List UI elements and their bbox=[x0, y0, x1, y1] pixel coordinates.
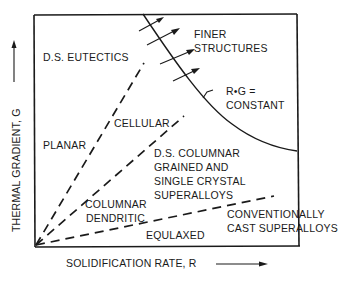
x-axis-label-group: SOLIDIFICATION RATE, R bbox=[66, 257, 268, 269]
up-arrow-icon bbox=[12, 40, 17, 82]
arrow-3 bbox=[160, 49, 195, 64]
y-axis-label-group: THERMAL GRADIENT, G bbox=[10, 40, 22, 232]
right-arrow-icon bbox=[216, 262, 268, 267]
label-rg-2: CONSTANT bbox=[226, 99, 285, 111]
label-ds-columnar-4: SUPERALLOYS bbox=[154, 189, 233, 201]
label-finer-1: FINER bbox=[194, 28, 227, 40]
label-ds-columnar-1: D.S. COLUMNAR bbox=[154, 147, 240, 159]
x-axis-label: SOLIDIFICATION RATE, R bbox=[66, 257, 197, 269]
y-axis-label: THERMAL GRADIENT, G bbox=[10, 108, 22, 232]
region-labels: D.S. EUTECTICS PLANAR CELLULAR COLUMNAR … bbox=[43, 28, 338, 241]
arrow-2 bbox=[147, 28, 180, 45]
arrowhead-icon bbox=[156, 17, 164, 23]
arrowhead-icon bbox=[191, 68, 200, 74]
label-columnar-dendritic-2: DENDRITIC bbox=[86, 212, 145, 224]
solidification-diagram: D.S. EUTECTICS PLANAR CELLULAR COLUMNAR … bbox=[0, 0, 345, 281]
constant-leader-line bbox=[203, 90, 213, 98]
label-cellular: CELLULAR bbox=[114, 117, 170, 129]
arrow-1 bbox=[139, 17, 164, 31]
frame-top bbox=[34, 14, 297, 15]
arrowhead-icon bbox=[171, 28, 180, 35]
label-conventionally-cast-1: CONVENTIONALLY bbox=[227, 208, 325, 220]
label-conventionally-cast-2: CAST SUPERALLOYS bbox=[227, 222, 338, 234]
label-equiaxed: EQULAXED bbox=[146, 229, 205, 241]
label-planar: PLANAR bbox=[43, 139, 86, 151]
arrow-4 bbox=[173, 68, 200, 81]
label-ds-columnar-3: SINGLE CRYSTAL bbox=[154, 175, 246, 187]
label-rg-1: R•G = bbox=[226, 85, 255, 97]
y-axis-line bbox=[34, 15, 35, 247]
label-columnar-dendritic-1: COLUMNAR bbox=[85, 198, 147, 210]
label-finer-2: STRUCTURES bbox=[194, 42, 268, 54]
x-axis-line bbox=[35, 246, 300, 247]
label-ds-columnar-2: GRAINED AND bbox=[154, 161, 229, 173]
label-ds-eutectics: D.S. EUTECTICS bbox=[43, 51, 129, 63]
